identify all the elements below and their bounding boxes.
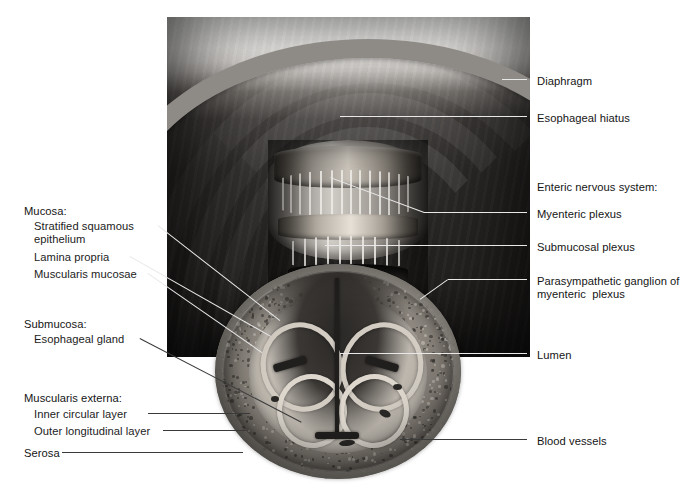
label-submucosa-group: Submucosa: <box>24 318 87 332</box>
label-esophageal-gland: Esophageal gland <box>34 333 124 347</box>
label-inner-circular-layer: Inner circular layer <box>34 408 127 422</box>
leader-lumen <box>340 353 527 354</box>
label-lumen: Lumen <box>537 349 571 363</box>
label-lamina-propria: Lamina propria <box>34 251 109 265</box>
label-serosa: Serosa <box>24 447 60 461</box>
leader-diaphragm <box>502 79 527 80</box>
leader-parasympathetic <box>448 279 527 280</box>
label-parasympathetic-ganglion: Parasympathetic ganglion of <box>537 275 680 289</box>
label-blood-vessels: Blood vessels <box>537 435 607 449</box>
leader-blood-vessels <box>400 439 527 440</box>
label-stratified-squamous: Stratified squamous <box>34 220 134 234</box>
label-myenteric-plexus: Myenteric plexus <box>537 208 622 222</box>
label-enteric-nervous-system-group: Enteric nervous system: <box>537 181 658 195</box>
label-parasympathetic-ganglion-line2: myenteric plexus <box>537 288 625 302</box>
diaphragm-band <box>167 17 530 137</box>
label-muscularis-mucosae: Muscularis mucosae <box>34 268 137 282</box>
leader-esophageal-hiatus <box>340 116 527 117</box>
label-outer-longitudinal-layer: Outer longitudinal layer <box>34 425 150 439</box>
label-muscularis-externa-group: Muscularis externa: <box>24 392 122 406</box>
leader-serosa <box>62 452 243 453</box>
mucosa-stripe-band <box>276 170 420 218</box>
leader-outer-longitudinal <box>163 430 246 431</box>
label-diaphragm: Diaphragm <box>537 75 592 89</box>
leader-submucosal-plexus <box>325 245 527 246</box>
label-submucosal-plexus: Submucosal plexus <box>537 241 635 255</box>
leader-inner-circular <box>148 413 250 414</box>
label-esophageal-hiatus: Esophageal hiatus <box>537 112 630 126</box>
anatomy-figure: Mucosa:Stratified squamousepitheliumLami… <box>0 0 696 498</box>
label-mucosa-group: Mucosa: <box>24 205 67 219</box>
diaphragm-arc <box>167 39 530 137</box>
leader-myenteric-plexus <box>424 212 527 213</box>
label-epithelium: epithelium <box>34 233 86 247</box>
